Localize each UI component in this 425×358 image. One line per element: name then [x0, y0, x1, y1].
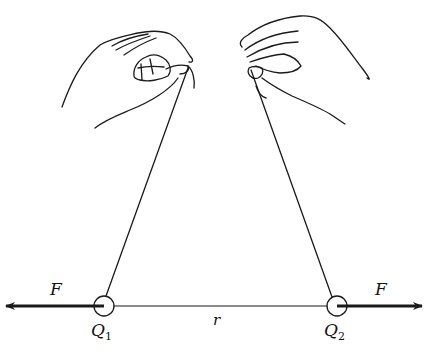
right-hand-icon [240, 16, 369, 124]
charge1-subscript: 1 [105, 330, 112, 343]
coulomb-force-diagram: F F Q1 Q2 r [0, 0, 425, 358]
left-hand-icon [62, 31, 194, 128]
distance-label: r [213, 313, 220, 328]
charge2-label: Q2 [324, 322, 345, 342]
charge1-symbol: Q [91, 320, 105, 340]
force-label-right: F [375, 281, 387, 298]
charge2-symbol: Q [324, 320, 338, 340]
charge1-label: Q1 [91, 322, 112, 342]
charge2-subscript: 2 [338, 330, 345, 343]
thread-right [251, 70, 332, 297]
force-label-left: F [50, 281, 62, 298]
diagram-drawing [0, 0, 425, 358]
